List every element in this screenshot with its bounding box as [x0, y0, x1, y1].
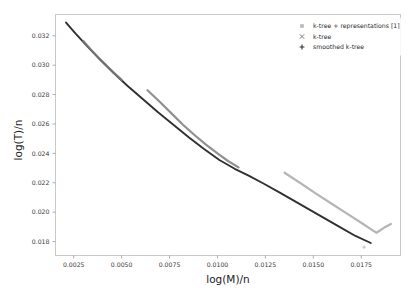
y-tick-label: 0.030 — [32, 61, 50, 68]
x-tick-label: 0.0025 — [63, 261, 85, 268]
x-tick-label: 0.0150 — [302, 261, 324, 268]
y-tick-label: 0.024 — [32, 150, 50, 157]
x-tick-label: 0.0125 — [255, 261, 277, 268]
outlier-points-group — [362, 246, 365, 249]
x-tick-label: 0.0075 — [159, 261, 181, 268]
y-tick-label: 0.020 — [32, 208, 50, 215]
y-tick-label: 0.018 — [32, 238, 50, 245]
legend-entry-label: k-tree + representations [1] — [313, 22, 400, 30]
y-tick-label: 0.028 — [32, 91, 50, 98]
square-marker — [300, 24, 304, 28]
x-tick-label: 0.0050 — [111, 261, 133, 268]
chart-svg: 0.00250.00500.00750.01000.01250.01500.01… — [0, 0, 419, 296]
y-tick-label: 0.026 — [32, 120, 50, 127]
chart-legend[interactable]: k-tree + representations [1]k-treesmooth… — [292, 18, 404, 56]
legend-entry-label: smoothed k-tree — [313, 43, 364, 50]
y-tick-label: 0.032 — [32, 32, 50, 39]
figure-container: 0.00250.00500.00750.01000.01250.01500.01… — [0, 0, 419, 296]
y-axis-label: log(T)/n — [12, 120, 24, 161]
y-tick-label: 0.022 — [32, 179, 50, 186]
legend-entry-label: k-tree — [313, 33, 331, 40]
x-tick-label: 0.0100 — [207, 261, 229, 268]
outlier-point — [362, 246, 365, 249]
x-tick-label: 0.0175 — [350, 261, 372, 268]
x-axis-label: log(M)/n — [206, 273, 249, 285]
